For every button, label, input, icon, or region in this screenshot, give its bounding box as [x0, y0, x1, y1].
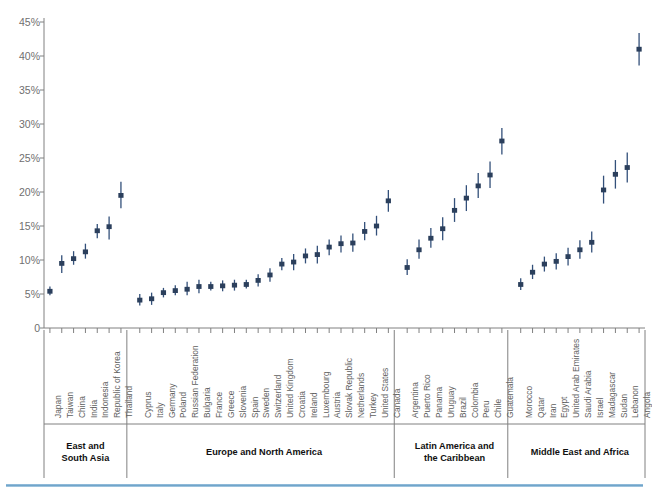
data-point: Brazil: 17.3% — [452, 198, 457, 222]
value-marker — [244, 282, 249, 287]
data-point: Angola: 41% — [636, 33, 641, 66]
data-point: Thailand: 19.5% — [118, 182, 123, 209]
data-point: Panama: 13.2% — [428, 228, 433, 248]
value-marker — [518, 282, 523, 287]
data-point: Indonesia: 14.3% — [95, 224, 100, 238]
value-marker — [47, 289, 52, 294]
data-point: Morocco: 6.4% — [518, 278, 523, 290]
value-marker — [173, 288, 178, 293]
value-marker — [554, 259, 559, 264]
value-marker — [303, 254, 308, 259]
data-point: Turkey: 14.2% — [362, 222, 367, 240]
value-marker — [291, 260, 296, 265]
value-marker — [416, 247, 421, 252]
data-point: India: 11.2% — [83, 244, 88, 259]
value-marker — [613, 172, 618, 177]
data-point: Peru: 20.9% — [476, 173, 481, 198]
value-marker — [327, 245, 332, 250]
data-point: Slovenia: 6.3% — [232, 280, 237, 291]
data-point: Greece: 6.2% — [220, 280, 225, 291]
data-point: Taiwan: 9.5% — [59, 255, 64, 273]
group-label-line1: Latin America and — [401, 440, 508, 452]
value-marker — [464, 196, 469, 201]
value-marker — [542, 262, 547, 267]
data-point: Poland: 5.5% — [173, 285, 178, 295]
value-marker — [220, 283, 225, 288]
data-point: Israel: 12.6% — [589, 231, 594, 252]
value-marker — [256, 278, 261, 283]
data-point: Russian Federation: 5.7% — [185, 282, 190, 296]
data-point: Japan: 5.4% — [47, 287, 52, 296]
data-point: Qatar: 8.2% — [530, 265, 535, 279]
value-marker — [589, 240, 594, 245]
group-label: East andSouth Asia — [44, 440, 127, 464]
value-marker — [196, 284, 201, 289]
data-point: Republic of Korea: 14.9% — [107, 216, 112, 239]
group-label: Middle East and Africa — [515, 446, 645, 458]
data-point: United Kingdom: 9.4% — [279, 258, 284, 270]
value-marker — [405, 265, 410, 270]
data-point: Switzerland: 7.8% — [267, 268, 272, 282]
data-point: Ireland: 10.6% — [303, 248, 308, 263]
value-marker — [440, 226, 445, 231]
data-point: Lebanon: 23.6% — [625, 153, 630, 183]
group-label: Europe and North America — [134, 446, 394, 458]
data-point: Austria: 11.9% — [327, 240, 332, 256]
data-point: Saudi Arabia: 11.5% — [577, 240, 582, 258]
value-marker — [362, 229, 367, 234]
data-point: Spain: 6.4% — [244, 280, 249, 289]
data-point: Guatemala: 27.5% — [499, 128, 504, 155]
data-point: Netherlands: 12.5% — [350, 233, 355, 251]
value-marker — [487, 173, 492, 178]
value-marker — [530, 270, 535, 275]
footer-divider — [6, 484, 643, 487]
data-point: Puerto Rico: 11.5% — [416, 240, 421, 259]
value-marker — [95, 228, 100, 233]
value-marker — [452, 208, 457, 213]
value-marker — [71, 256, 76, 261]
value-marker — [59, 261, 64, 266]
value-marker — [315, 252, 320, 257]
value-marker — [476, 183, 481, 188]
data-point: Luxembourg: 10.8% — [315, 246, 320, 264]
value-marker — [386, 198, 391, 203]
value-marker — [338, 241, 343, 246]
value-marker — [428, 236, 433, 241]
group-label-line1: East and — [44, 440, 127, 452]
value-marker — [625, 165, 630, 170]
value-marker — [601, 188, 606, 193]
data-point: Uruguay: 14.6% — [440, 217, 445, 240]
data-point: Iran: 9.4% — [542, 257, 547, 272]
group-label-line2: the Caribbean — [401, 452, 508, 464]
value-marker — [267, 273, 272, 278]
data-point: Cyprus: 4.1% — [137, 294, 142, 306]
data-point: Canada: 18.7% — [386, 190, 391, 212]
group-label-line1: Middle East and Africa — [515, 446, 645, 458]
value-marker — [118, 193, 123, 198]
data-point: Slovak Republic: 12.4% — [338, 236, 343, 253]
data-point: Bulgaria: 6.1% — [196, 280, 201, 294]
data-point: Sudan: 22.6% — [613, 160, 618, 189]
data-point: Argentina: 8.9% — [405, 259, 410, 275]
value-marker — [565, 254, 570, 259]
value-marker — [279, 262, 284, 267]
data-point: Madagascar: 20.3% — [601, 176, 606, 204]
data-point: China: 10.2% — [71, 251, 76, 265]
value-marker — [161, 290, 166, 295]
data-point: Egypt: 9.8% — [554, 253, 559, 269]
value-marker — [83, 249, 88, 254]
data-point: Germany: 5.2% — [161, 288, 166, 298]
value-marker — [374, 224, 379, 229]
value-marker — [185, 287, 190, 292]
value-marker — [208, 284, 213, 289]
data-point: United Arab Emirates: 10.5% — [565, 248, 570, 266]
data-point: United States: 15% — [374, 216, 379, 236]
value-marker — [137, 298, 142, 303]
value-marker — [636, 47, 641, 52]
data-point: Italy: 4.3% — [149, 293, 154, 305]
group-label-line1: Europe and North America — [134, 446, 394, 458]
data-point: France: 6.1% — [208, 282, 213, 291]
group-label: Latin America andthe Caribbean — [401, 440, 508, 464]
